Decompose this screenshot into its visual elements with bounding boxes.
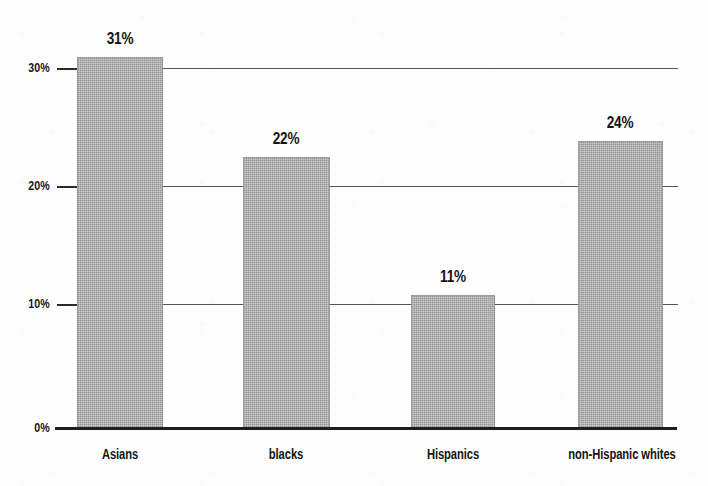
bar-hispanics[interactable] — [411, 295, 495, 428]
y-axis-label-0: 0% — [9, 420, 50, 435]
bar-non-hispanic-whites[interactable] — [578, 141, 663, 428]
bar-asians[interactable] — [77, 57, 163, 428]
y-axis-label-10: 10% — [9, 296, 50, 311]
tick-mark-20 — [57, 186, 78, 188]
tick-mark-10 — [57, 304, 78, 306]
bar-value-asians: 31% — [80, 29, 160, 49]
category-label-blacks: blacks — [226, 446, 346, 462]
bar-value-non-hispanic-whites: 24% — [580, 113, 660, 133]
category-label-hispanics: Hispanics — [393, 446, 513, 462]
category-label-non-hispanic-whites: non-Hispanic whites — [546, 446, 698, 462]
bar-value-hispanics: 11% — [413, 267, 493, 287]
chart-page: 30% 20% 10% 0% 31% 22% 11% 24% Asians bl… — [0, 0, 708, 486]
x-axis-baseline — [55, 427, 677, 430]
y-axis-label-20: 20% — [9, 178, 50, 193]
category-label-asians: Asians — [60, 446, 180, 462]
bar-blacks[interactable] — [243, 157, 330, 428]
y-axis-label-30: 30% — [9, 60, 50, 75]
tick-mark-30 — [57, 68, 78, 70]
bar-value-blacks: 22% — [246, 129, 326, 149]
bar-chart-plot-area: 30% 20% 10% 0% 31% 22% 11% 24% Asians bl… — [0, 0, 708, 486]
gridline-30 — [77, 68, 678, 69]
